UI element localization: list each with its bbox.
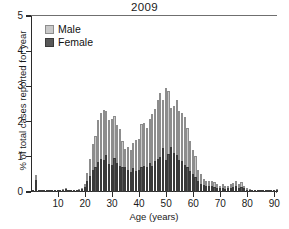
- x-axis-tick-label: 50: [154, 198, 178, 209]
- x-axis-tick: [166, 192, 167, 197]
- male-swatch-icon: [45, 25, 54, 34]
- y-axis-tick-label: 5: [0, 11, 23, 21]
- y-axis-tick-label: 3: [0, 81, 23, 91]
- x-axis-label: Age (years): [31, 211, 277, 222]
- legend-item-female: Female: [45, 37, 93, 48]
- y-axis-tick: [26, 51, 31, 52]
- y-axis-tick-label: 4: [0, 46, 23, 56]
- x-axis-tick-label: 40: [127, 198, 151, 209]
- y-axis-tick: [26, 191, 31, 192]
- legend-label-female: Female: [58, 37, 93, 48]
- x-axis-tick: [247, 192, 248, 197]
- y-axis-tick: [26, 156, 31, 157]
- x-axis-tick-label: 70: [208, 198, 232, 209]
- x-axis-tick-label: 90: [262, 198, 286, 209]
- x-axis-tick-label: 80: [235, 198, 259, 209]
- y-axis-tick: [26, 15, 31, 16]
- x-axis-tick: [85, 192, 86, 197]
- x-axis-tick: [274, 192, 275, 197]
- chart-legend: Male Female: [45, 24, 93, 50]
- chart-title: 2009: [0, 0, 289, 15]
- x-axis-tick-label: 20: [73, 198, 97, 209]
- x-axis-tick: [58, 192, 59, 197]
- x-axis-tick-label: 10: [46, 198, 70, 209]
- legend-label-male: Male: [58, 24, 81, 35]
- x-axis-tick: [220, 192, 221, 197]
- bar-segment-female: [276, 190, 278, 192]
- x-axis-tick: [112, 192, 113, 197]
- chart-figure: 2009 % of total cases reported for year …: [0, 0, 289, 229]
- legend-item-male: Male: [45, 24, 93, 35]
- y-axis-label: % of total cases reported for year: [17, 6, 28, 196]
- bar-column: [276, 189, 278, 192]
- x-axis-tick: [193, 192, 194, 197]
- x-axis-tick: [139, 192, 140, 197]
- y-axis-tick: [26, 86, 31, 87]
- y-axis-tick-label: 2: [0, 117, 23, 127]
- y-axis-tick-label: 1: [0, 152, 23, 162]
- y-axis-tick: [26, 121, 31, 122]
- female-swatch-icon: [45, 38, 54, 47]
- x-axis-tick-label: 60: [181, 198, 205, 209]
- y-axis-tick-label: 0: [0, 187, 23, 197]
- x-axis-tick-label: 30: [100, 198, 124, 209]
